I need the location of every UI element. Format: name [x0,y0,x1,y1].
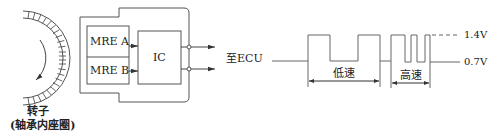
mre-b-label: MRE B [90,65,129,77]
rotor-icon [23,11,70,105]
sensor-diagram [0,0,498,135]
output-label: 至ECU [226,53,263,65]
waveform [272,35,460,88]
mre-a-label: MRE A [90,36,129,48]
rotor-label: 转子 [27,106,49,118]
low-level-label: 0.7V [464,56,487,68]
ic-label: IC [153,52,166,64]
sensor-housing [80,8,189,102]
rotor-sublabel: (轴承内座圈) [10,120,75,132]
low-speed-label: 低速 [333,68,355,80]
high-level-label: 1.4V [464,29,487,41]
high-speed-label: 高速 [400,70,422,82]
